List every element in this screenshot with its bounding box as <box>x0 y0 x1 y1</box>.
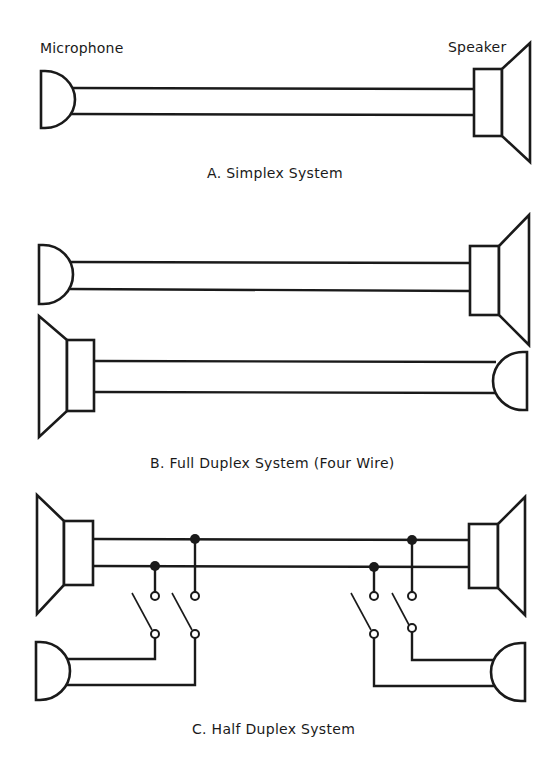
speaker-icon-cone <box>499 215 529 345</box>
microphone-icon <box>491 643 525 701</box>
full-duplex-wire-2 <box>70 289 470 291</box>
speaker-icon-cone <box>39 316 67 437</box>
speaker-label: Speaker <box>448 39 506 55</box>
microphone-icon <box>41 71 75 128</box>
switch-lever-icon <box>172 593 192 630</box>
simplex-wire-top <box>71 88 473 89</box>
half-duplex-system <box>36 495 525 701</box>
speaker-icon-box <box>67 340 94 411</box>
microphone-icon <box>493 352 527 410</box>
caption-simplex: A. Simplex System <box>207 165 343 181</box>
speaker-icon-cone <box>37 495 64 614</box>
junction-dot-icon <box>190 534 200 544</box>
telephone-systems-diagram <box>0 0 553 758</box>
speaker-icon-cone <box>502 43 530 162</box>
junction-dot-icon <box>369 562 379 572</box>
switch-terminal-icon <box>408 624 416 632</box>
switch-terminal-icon <box>370 630 378 638</box>
microphone-icon <box>36 642 70 700</box>
switch-lever-icon <box>351 593 371 630</box>
junction-dot-icon <box>150 561 160 571</box>
switch-terminal-icon <box>370 592 378 600</box>
full-duplex-system <box>39 215 529 437</box>
switch-terminal-icon <box>191 630 199 638</box>
full-duplex-wire-3 <box>95 361 496 362</box>
speaker-icon-box <box>469 524 498 588</box>
right-mic-wire-2 <box>374 638 495 686</box>
full-duplex-wire-1 <box>70 262 470 263</box>
caption-full-duplex: B. Full Duplex System (Four Wire) <box>150 455 395 471</box>
left-mic-wire-2 <box>66 638 195 685</box>
switch-terminal-icon <box>151 592 159 600</box>
switch-terminal-icon <box>191 592 199 600</box>
caption-half-duplex: C. Half Duplex System <box>192 721 355 737</box>
left-mic-wire-1 <box>66 638 155 659</box>
switch-terminal-icon <box>151 630 159 638</box>
speaker-icon-box <box>64 521 93 585</box>
speaker-icon-box <box>474 69 502 136</box>
microphone-icon <box>39 245 73 304</box>
simplex-system <box>41 43 530 162</box>
speaker-icon-box <box>470 246 499 315</box>
right-mic-wire-1 <box>412 632 495 660</box>
switch-lever-icon <box>132 593 152 630</box>
junction-dot-icon <box>407 535 417 545</box>
microphone-label: Microphone <box>40 40 124 56</box>
switch-terminal-icon <box>408 592 416 600</box>
full-duplex-wire-4 <box>95 392 496 393</box>
simplex-wire-bottom <box>71 114 473 115</box>
switch-lever-icon <box>392 593 409 625</box>
speaker-icon-cone <box>498 497 525 615</box>
